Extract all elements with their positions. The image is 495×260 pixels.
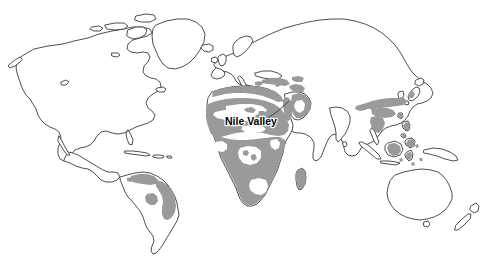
landmass-newfoundland	[156, 87, 166, 92]
shaded-region-islet-b	[415, 144, 419, 148]
landmass-new-guinea	[424, 148, 458, 161]
landmass-greenland	[152, 19, 205, 69]
landmass-hispaniola	[153, 155, 164, 158]
landmass-victoria-island	[105, 23, 128, 30]
landmass-iceland	[201, 44, 213, 52]
landmass-ellesmere-island	[135, 14, 156, 22]
landmass-new-zealand-north	[470, 203, 479, 213]
landmass-central-america	[64, 152, 120, 182]
landmass-north-america	[16, 27, 161, 161]
shaded-region-islet-d	[411, 162, 415, 166]
landmass-banks-island	[90, 26, 103, 31]
shaded-region-islet-c	[399, 158, 403, 162]
world-map-svg: Nile Valley	[0, 0, 495, 260]
landmass-florida	[126, 130, 133, 145]
world-map-figure: Nile Valley	[0, 0, 495, 260]
landmass-new-zealand-south	[455, 214, 471, 230]
landmass-layer	[8, 14, 479, 254]
landmass-cuba	[125, 151, 150, 156]
landmass-tasmania	[424, 221, 430, 227]
landmass-australia	[387, 169, 452, 220]
nile-valley-label: Nile Valley	[225, 115, 277, 127]
landmass-puerto-rico	[167, 156, 172, 158]
shaded-region-islet-e	[419, 158, 423, 161]
landmass-java	[381, 161, 400, 165]
landmass-ireland	[212, 57, 218, 63]
